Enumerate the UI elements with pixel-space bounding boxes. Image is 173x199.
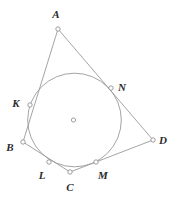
- label-L: L: [39, 170, 46, 181]
- label-K: K: [12, 98, 19, 109]
- vertex-marker-D: [151, 138, 155, 142]
- tangency-marker-N: [109, 86, 113, 90]
- geometry-canvas: [0, 0, 173, 199]
- label-N: N: [118, 82, 126, 93]
- vertex-marker-A: [56, 27, 60, 31]
- geometry-figure: A B C D K L M N: [0, 0, 173, 199]
- label-B: B: [6, 142, 13, 153]
- tangency-marker-K: [28, 103, 32, 107]
- vertex-marker-C: [68, 170, 72, 174]
- tangency-marker-L: [47, 160, 51, 164]
- tangency-marker-M: [94, 160, 98, 164]
- edge-CD: [70, 140, 153, 172]
- label-M: M: [98, 170, 108, 181]
- circle-center-marker: [71, 118, 75, 122]
- label-C: C: [66, 182, 73, 193]
- label-A: A: [52, 9, 59, 20]
- label-D: D: [159, 135, 167, 146]
- vertex-marker-B: [21, 140, 25, 144]
